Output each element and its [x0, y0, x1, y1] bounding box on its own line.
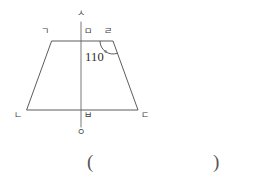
vertex-label-top-right: ㄹ — [104, 27, 112, 36]
angle-measure-value: 110 — [85, 50, 104, 64]
answer-close-paren: ) — [213, 152, 219, 171]
point-label-axis-top: ㅅ — [77, 9, 85, 18]
vertex-label-top-left: ㄱ — [41, 27, 49, 36]
vertex-label-bottom-right: ㄷ — [141, 111, 149, 120]
angle-measure-label: 110° — [85, 47, 107, 64]
point-label-axis-bottom: ㅇ — [77, 128, 85, 137]
trapezoid-outline — [27, 41, 138, 110]
point-label-bottom-midline: ㅂ — [84, 111, 92, 120]
point-label-top-midline: ㅁ — [84, 27, 92, 36]
figure-page: ㄱ ㄴ ㄷ ㄹ ㅁ ㅂ ㅅ ㅇ 110° ( ) — [0, 0, 256, 182]
vertex-label-bottom-left: ㄴ — [14, 111, 22, 120]
degree-symbol: ° — [104, 49, 107, 58]
answer-open-paren: ( — [87, 152, 93, 171]
